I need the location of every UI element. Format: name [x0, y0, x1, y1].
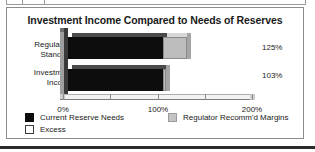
value-label-regulatory-standard: 125%	[262, 43, 302, 52]
axis-tick-minor-50	[110, 94, 111, 100]
artifact-vertical-line	[22, 0, 23, 5]
legend-label: Regulator Recomm'd Margins	[183, 113, 289, 122]
axis-tick-minor-150	[205, 94, 206, 100]
artifact-vertical-line	[305, 0, 306, 5]
chart-legend: Current Reserve Needs Excess Regulator R…	[7, 112, 305, 138]
page-divider-rule	[0, 146, 315, 149]
axis-tick-100	[158, 94, 159, 100]
artifact-vertical-line	[6, 0, 7, 5]
artifact-vertical-line	[44, 0, 45, 5]
legend-item-regulator-margins: Regulator Recomm'd Margins	[168, 113, 289, 122]
category-axis-line	[64, 94, 254, 95]
legend-label: Excess	[40, 125, 66, 134]
legend-swatch-gray-icon	[168, 113, 177, 122]
legend-swatch-black-icon	[25, 113, 34, 122]
axis-tick-200	[252, 94, 253, 100]
axis-floor-front-edge	[60, 99, 250, 100]
legend-item-excess: Excess	[25, 125, 66, 134]
legend-swatch-white-icon	[25, 125, 34, 134]
axis-tick-0	[63, 94, 64, 100]
page-scan-artifact-top	[0, 0, 315, 6]
chart-container: Investment Income Compared to Needs of R…	[6, 7, 304, 139]
legend-item-current-reserve-needs: Current Reserve Needs	[25, 113, 124, 122]
artifact-horizontal-line	[6, 4, 306, 5]
legend-label: Current Reserve Needs	[40, 113, 124, 122]
value-label-investment-income: 103%	[262, 71, 302, 80]
